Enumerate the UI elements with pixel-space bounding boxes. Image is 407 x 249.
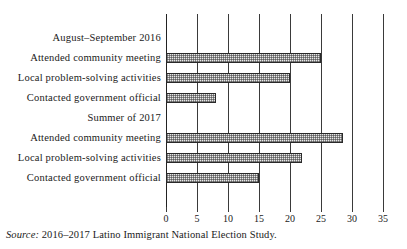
x-tick-20 bbox=[290, 207, 291, 212]
x-tick-label-15: 15 bbox=[244, 213, 274, 225]
bar-row: Attended community meeting bbox=[166, 48, 383, 68]
group-header-label: August–September 2016 bbox=[1, 28, 166, 48]
plot-area: August–September 2016Attended community … bbox=[166, 14, 383, 207]
bar-row: Local problem-solving activities bbox=[166, 68, 383, 88]
x-tick-label-30: 30 bbox=[337, 213, 367, 225]
bar bbox=[166, 73, 290, 83]
bar-chart-figure: August–September 2016Attended community … bbox=[0, 0, 407, 249]
bar-row: Contacted government official bbox=[166, 168, 383, 188]
source-note: Source: 2016–2017 Latino Immigrant Natio… bbox=[6, 228, 277, 242]
x-axis: 05101520253035 bbox=[166, 207, 383, 208]
x-tick-0 bbox=[166, 207, 167, 212]
bar-category-label: Attended community meeting bbox=[1, 48, 166, 68]
x-tick-35 bbox=[383, 207, 384, 212]
bar bbox=[166, 173, 259, 183]
x-tick-label-20: 20 bbox=[275, 213, 305, 225]
bar-row: Local problem-solving activities bbox=[166, 148, 383, 168]
gridline-35 bbox=[383, 14, 384, 207]
bar-category-label: Contacted government official bbox=[1, 88, 166, 108]
x-tick-25 bbox=[321, 207, 322, 212]
source-note-label: Source: bbox=[6, 229, 39, 240]
x-tick-15 bbox=[259, 207, 260, 212]
bar bbox=[166, 153, 302, 163]
bar bbox=[166, 133, 343, 143]
chart-title bbox=[0, 0, 407, 6]
x-tick-label-0: 0 bbox=[151, 213, 181, 225]
bar-row: Attended community meeting bbox=[166, 128, 383, 148]
x-tick-label-25: 25 bbox=[306, 213, 336, 225]
x-tick-label-5: 5 bbox=[182, 213, 212, 225]
bar bbox=[166, 93, 216, 103]
bar-category-label: Contacted government official bbox=[1, 168, 166, 188]
x-tick-5 bbox=[197, 207, 198, 212]
bar-category-label: Local problem-solving activities bbox=[1, 148, 166, 168]
group-header-row: August–September 2016 bbox=[166, 28, 383, 48]
source-note-text: 2016–2017 Latino Immigrant National Elec… bbox=[39, 229, 277, 240]
x-tick-30 bbox=[352, 207, 353, 212]
x-tick-label-35: 35 bbox=[368, 213, 398, 225]
bar bbox=[166, 53, 321, 63]
bar-row: Contacted government official bbox=[166, 88, 383, 108]
group-header-row: Summer of 2017 bbox=[166, 108, 383, 128]
x-tick-10 bbox=[228, 207, 229, 212]
x-tick-label-10: 10 bbox=[213, 213, 243, 225]
group-header-label: Summer of 2017 bbox=[1, 108, 166, 128]
bar-category-label: Local problem-solving activities bbox=[1, 68, 166, 88]
bar-category-label: Attended community meeting bbox=[1, 128, 166, 148]
